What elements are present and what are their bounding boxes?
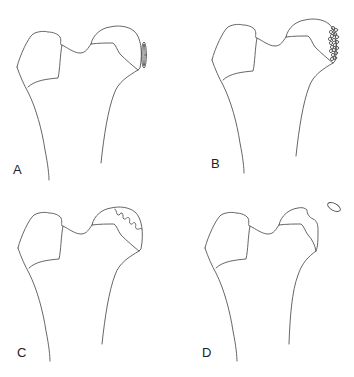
lesion-fragment-a (142, 42, 147, 68)
femur-drawing-b (177, 0, 354, 188)
panel-d: D (177, 188, 354, 377)
panel-label-b: B (211, 157, 220, 170)
femur-drawing-a (0, 0, 177, 188)
panel-label-c: C (17, 346, 26, 359)
panel-label-a: A (13, 163, 22, 176)
panel-a: A (0, 0, 177, 188)
femur-figure: A B (0, 0, 354, 377)
panel-label-d: D (202, 346, 211, 359)
panel-c: C (0, 188, 177, 377)
panel-b: B (177, 0, 354, 188)
femur-drawing-c (0, 188, 177, 377)
lesion-detached-ellipse-d (326, 201, 342, 214)
lesion-serrated-line-c (115, 209, 142, 229)
lesion-fragment-a-inner (143, 44, 145, 66)
